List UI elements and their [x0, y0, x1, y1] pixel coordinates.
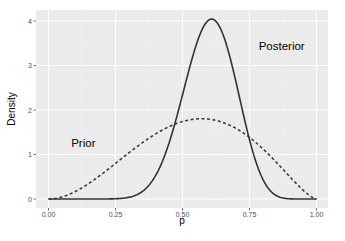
x-tick-label: 0.25 — [109, 211, 123, 218]
annotation-posterior: Posterior — [259, 40, 305, 52]
y-tick-label: 3 — [28, 62, 32, 69]
y-tick-label: 0 — [28, 196, 32, 203]
x-axis-title: p — [179, 215, 185, 226]
y-tick-label: 2 — [28, 107, 32, 114]
x-tick-label: 1.00 — [310, 211, 324, 218]
annotation-prior: Prior — [71, 137, 95, 149]
y-tick-label: 4 — [28, 18, 32, 25]
y-axis: 01234 — [28, 18, 36, 203]
density-chart: 01234 0.000.250.500.751.00 p Density Pri… — [0, 0, 345, 241]
x-tick-label: 0.00 — [42, 211, 56, 218]
x-tick-label: 0.75 — [243, 211, 257, 218]
y-axis-title: Density — [6, 92, 17, 125]
y-tick-label: 1 — [28, 151, 32, 158]
